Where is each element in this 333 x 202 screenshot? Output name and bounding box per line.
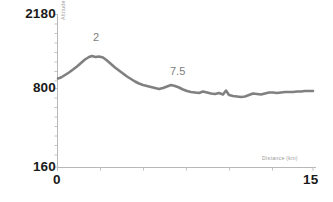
x-axis-label-end: 15: [303, 172, 318, 187]
x-axis-label-start: 0: [53, 172, 61, 187]
annotation-peak-marker: 2: [93, 31, 99, 43]
annotation-bump-marker: 7.5: [170, 65, 185, 77]
y-axis-title: Altitude (m): [60, 0, 66, 20]
y-axis-label-max: 2180: [25, 6, 56, 21]
x-axis-title: Distance (km): [262, 155, 298, 161]
x-axis-ticks: [58, 168, 314, 172]
elevation-profile-chart: 2180 800 160 0 15 Altitude (m) Distance …: [0, 0, 333, 202]
elevation-profile-line: [58, 56, 313, 97]
y-axis-label-mid: 800: [33, 80, 56, 95]
